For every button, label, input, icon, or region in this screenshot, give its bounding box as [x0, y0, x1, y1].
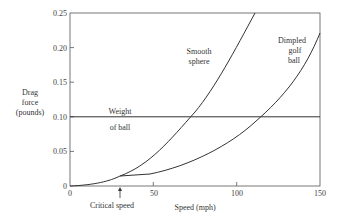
critical-speed-label: Critical speed	[90, 201, 134, 210]
smooth-label-line1: Smooth	[187, 47, 212, 56]
y-tick-0.15: 0.15	[53, 78, 67, 87]
x-tick-50: 50	[150, 189, 158, 198]
y-axis-label-line3: (pounds)	[16, 108, 45, 117]
drag-force-chart: 0 0.05 0.10 0.15 0.20 0.25 0 50 100 150 …	[0, 0, 340, 224]
weight-label-line1: Weight	[109, 107, 133, 116]
x-axis-label: Speed (mph)	[174, 203, 215, 212]
smooth-sphere-curve	[70, 13, 255, 186]
arrow-head-icon	[118, 187, 122, 191]
y-tick-0.05: 0.05	[53, 147, 67, 156]
y-axis-label-line1: Drag	[22, 88, 38, 97]
x-tick-0: 0	[68, 189, 72, 198]
y-tick-0.25: 0.25	[53, 9, 67, 18]
y-axis-label-line2: force	[22, 98, 39, 107]
smooth-label-line2: sphere	[189, 57, 210, 66]
dimpled-label-line2: golf	[289, 46, 302, 55]
y-tick-0: 0	[63, 182, 67, 191]
y-tick-0.20: 0.20	[53, 44, 67, 53]
weight-label-line2: of ball	[110, 123, 131, 132]
dimpled-label-line3: ball	[288, 56, 301, 65]
x-ticks	[153, 182, 236, 186]
y-tick-0.10: 0.10	[53, 113, 67, 122]
y-ticks	[70, 48, 74, 152]
x-tick-150: 150	[314, 189, 326, 198]
dimpled-label-line1: Dimpled	[278, 36, 306, 45]
x-tick-100: 100	[231, 189, 243, 198]
